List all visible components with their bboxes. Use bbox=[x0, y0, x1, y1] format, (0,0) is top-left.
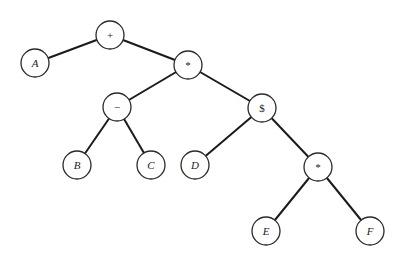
node-label: A bbox=[31, 57, 39, 69]
node-label: * bbox=[315, 161, 321, 173]
tree-node-op-2: * bbox=[174, 51, 202, 79]
node-label: C bbox=[147, 159, 155, 171]
tree-node-var-7: D bbox=[181, 151, 209, 179]
tree-nodes: +A*−$BCD*EF bbox=[21, 21, 384, 245]
tree-node-op-8: * bbox=[304, 153, 332, 181]
node-label: $ bbox=[259, 102, 265, 114]
tree-node-var-6: C bbox=[137, 151, 165, 179]
tree-node-var-1: A bbox=[21, 49, 49, 77]
tree-node-op-4: $ bbox=[248, 94, 276, 122]
node-label: B bbox=[74, 159, 81, 171]
expression-tree: +A*−$BCD*EF bbox=[0, 0, 405, 261]
tree-node-var-10: F bbox=[356, 217, 384, 245]
tree-node-op-3: − bbox=[103, 93, 131, 121]
node-label: * bbox=[185, 59, 191, 71]
node-label: + bbox=[107, 29, 113, 41]
node-label: E bbox=[262, 225, 270, 237]
tree-node-var-9: E bbox=[252, 217, 280, 245]
node-label: F bbox=[366, 225, 374, 237]
tree-node-op-0: + bbox=[96, 21, 124, 49]
tree-node-var-5: B bbox=[63, 151, 91, 179]
node-label: D bbox=[190, 159, 199, 171]
node-label: − bbox=[114, 101, 120, 113]
